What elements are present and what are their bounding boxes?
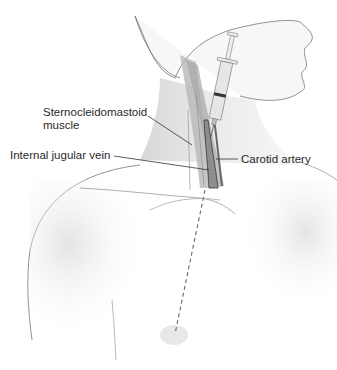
anatomy-illustration: Sternocleidomastoid muscle Internal jugu… (0, 0, 337, 370)
label-internal-jugular-vein: Internal jugular vein (10, 149, 110, 162)
needle-trajectory (175, 190, 205, 334)
label-carotid-artery: Carotid artery (241, 153, 311, 166)
illustration-svg (0, 0, 337, 370)
label-scm-line1: Sternocleidomastoid (43, 106, 147, 119)
label-sternocleidomastoid: Sternocleidomastoid muscle (43, 106, 147, 132)
torso-outline (28, 162, 337, 360)
label-scm-line2: muscle (43, 119, 147, 132)
